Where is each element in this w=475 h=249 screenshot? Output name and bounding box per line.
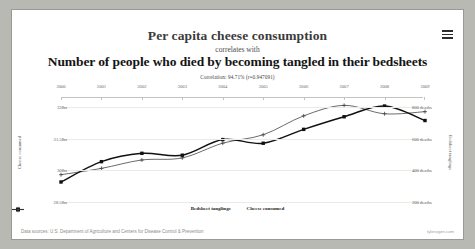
legend-item-bedsheet[interactable]: Bedsheet tanglings bbox=[191, 206, 231, 211]
gridline bbox=[61, 170, 423, 171]
y-axis-right-tick-600: 600 deaths bbox=[412, 136, 432, 141]
chart-series-svg bbox=[12, 98, 465, 202]
x-axis-tick-2005: 2005 bbox=[259, 84, 268, 89]
data-point-2006[interactable] bbox=[302, 114, 306, 118]
chart-legend: Bedsheet tanglings Cheese consumed bbox=[12, 206, 463, 211]
x-axis-tickmark bbox=[101, 97, 102, 100]
legend-marker-plus bbox=[12, 206, 24, 213]
legend-item-cheese[interactable]: Cheese consumed bbox=[247, 206, 285, 211]
y-axis-left-tick-30: 30lbs bbox=[57, 168, 67, 173]
y-axis-right-tick-800: 800 deaths bbox=[412, 105, 432, 110]
x-axis-tick-2003: 2003 bbox=[178, 84, 187, 89]
x-axis-tickmark bbox=[424, 97, 425, 100]
y-axis-right-tick-400: 400 deaths bbox=[412, 168, 432, 173]
title-connector: correlates with bbox=[12, 45, 463, 54]
page-title-bottom: Number of people who died by becoming ta… bbox=[12, 54, 463, 70]
data-point-2000[interactable] bbox=[59, 180, 62, 183]
watermark-text: tylervigen.com bbox=[427, 229, 454, 234]
data-point-2009[interactable] bbox=[423, 110, 427, 114]
y-axis-left-tick-31.5: 31.5lbs bbox=[54, 136, 67, 141]
x-axis-tickmark bbox=[182, 97, 183, 100]
x-axis-tickmark bbox=[385, 97, 386, 100]
data-point-2001[interactable] bbox=[100, 160, 103, 163]
x-axis-tickmark bbox=[344, 97, 345, 100]
x-axis-tickmark bbox=[142, 97, 143, 100]
page-title-top: Per capita cheese consumption bbox=[12, 28, 463, 44]
x-axis-tick-2009: 2009 bbox=[420, 84, 429, 89]
x-axis-tickmark bbox=[223, 97, 224, 100]
data-point-2005[interactable] bbox=[261, 133, 265, 137]
data-point-2002[interactable] bbox=[140, 158, 144, 162]
data-point-2009[interactable] bbox=[423, 119, 426, 122]
x-axis-tickmark bbox=[61, 97, 62, 100]
y-axis-left-tick-28.5: 28.5lbs bbox=[54, 200, 67, 205]
x-axis-tick-2006: 2006 bbox=[299, 84, 308, 89]
data-point-2008[interactable] bbox=[383, 112, 387, 116]
data-point-2004[interactable] bbox=[221, 141, 225, 145]
data-sources-text: Data sources: U.S. Department of Agricul… bbox=[21, 229, 204, 234]
data-point-2002[interactable] bbox=[140, 152, 143, 155]
chart-plot-area: 2000200120022003200420052006200720082009… bbox=[12, 84, 463, 214]
x-axis-tick-labels: 2000200120022003200420052006200720082009 bbox=[12, 84, 463, 96]
y-axis-left-tick-33: 33lbs bbox=[57, 105, 67, 110]
x-axis-tick-2004: 2004 bbox=[218, 84, 227, 89]
x-axis-tickmark bbox=[263, 97, 264, 100]
gridline bbox=[61, 107, 423, 108]
data-point-2006[interactable] bbox=[302, 128, 305, 131]
x-axis-tick-2007: 2007 bbox=[340, 84, 349, 89]
x-axis-tick-2001: 2001 bbox=[97, 84, 106, 89]
chart-canvas: Cheese consumed Bedsheet tanglings 200 d… bbox=[12, 98, 463, 202]
data-point-2005[interactable] bbox=[262, 142, 265, 145]
gridline bbox=[61, 139, 423, 140]
legend-label-bedsheet: Bedsheet tanglings bbox=[191, 206, 231, 211]
chart-card: Per capita cheese consumption correlates… bbox=[11, 9, 464, 240]
legend-label-cheese: Cheese consumed bbox=[247, 206, 285, 211]
correlation-label: Correlation: 94.71% (r=0.947091) bbox=[12, 74, 463, 80]
x-axis-tick-2008: 2008 bbox=[380, 84, 389, 89]
x-axis-tickmark bbox=[304, 97, 305, 100]
gridline bbox=[61, 202, 423, 203]
data-point-2000[interactable] bbox=[59, 173, 63, 177]
y-axis-right-tick-200: 200 deaths bbox=[412, 200, 432, 205]
x-axis-tick-2002: 2002 bbox=[137, 84, 146, 89]
data-point-2007[interactable] bbox=[342, 115, 345, 118]
data-point-2003[interactable] bbox=[181, 154, 184, 157]
x-axis-tick-2000: 2000 bbox=[56, 84, 65, 89]
hamburger-menu-icon[interactable] bbox=[442, 30, 453, 39]
series-line-cheese-consumed bbox=[61, 105, 425, 174]
